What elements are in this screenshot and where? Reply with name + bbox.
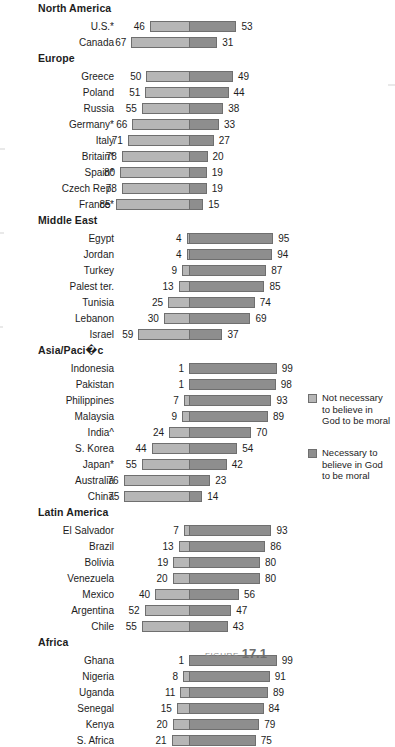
row-value-left: 51 (122, 86, 140, 99)
segment-necessary (190, 71, 233, 82)
segment-not-necessary (169, 427, 190, 438)
chart-row: Argentina5247 (0, 604, 395, 617)
segment-necessary (190, 573, 260, 584)
row-category-label: Brazil (6, 540, 114, 553)
row-value-right: 80 (265, 572, 289, 585)
row-value-right: 43 (233, 620, 257, 633)
row-bar (173, 557, 260, 568)
row-category-label: Chile (6, 620, 114, 633)
chart-row: Germany*6633 (0, 118, 395, 131)
row-value-left: 7 (161, 524, 179, 537)
row-value-right: 53 (241, 20, 265, 33)
segment-not-necessary (177, 703, 190, 714)
row-bar (189, 363, 277, 374)
segment-necessary (190, 703, 264, 714)
segment-necessary (190, 21, 236, 32)
row-category-label: India^ (6, 426, 114, 439)
row-category-label: Palest ter. (6, 280, 114, 293)
row-category-label: Israel (6, 328, 114, 341)
chart-row: Israel5937 (0, 328, 395, 341)
segment-necessary (190, 199, 203, 210)
segment-necessary (190, 329, 222, 340)
chart-row: Jordan494 (0, 248, 395, 261)
chart-row: Senegal1584 (0, 702, 395, 715)
segment-not-necessary (172, 735, 190, 746)
segment-necessary (190, 313, 250, 324)
row-bar (146, 71, 233, 82)
row-bar (187, 233, 274, 244)
row-value-right: 47 (236, 604, 260, 617)
group-heading: Middle East (38, 214, 97, 226)
row-value-left: 55 (119, 620, 137, 633)
chart-row: Lebanon3069 (0, 312, 395, 325)
chart-row: Poland5144 (0, 86, 395, 99)
segment-necessary (190, 151, 208, 162)
row-category-label: El Salvador (6, 524, 114, 537)
row-bar (124, 475, 211, 486)
segment-not-necessary (155, 589, 190, 600)
row-value-right: 23 (215, 474, 239, 487)
row-category-label: Poland (6, 86, 114, 99)
segment-necessary (190, 103, 223, 114)
segment-not-necessary (150, 21, 190, 32)
chart-row: France*8515 (0, 198, 395, 211)
row-value-right: 54 (242, 442, 266, 455)
segment-not-necessary (182, 265, 190, 276)
row-value-right: 69 (255, 312, 279, 325)
row-value-left: 11 (157, 686, 175, 699)
row-value-left: 21 (149, 734, 167, 747)
segment-necessary (190, 87, 229, 98)
row-bar (187, 249, 273, 260)
segment-necessary (190, 427, 251, 438)
segment-necessary (190, 167, 207, 178)
row-category-label: Senegal (6, 702, 114, 715)
row-value-left: 71 (105, 134, 123, 147)
row-value-left: 78 (99, 150, 117, 163)
segment-not-necessary (179, 281, 190, 292)
row-category-label: Lebanon (6, 312, 114, 325)
row-value-right: 93 (276, 394, 300, 407)
row-bar (145, 87, 228, 98)
row-bar (155, 589, 239, 600)
chart-row: Venezuela2080 (0, 572, 395, 585)
row-value-right: 91 (275, 670, 299, 683)
segment-not-necessary (180, 687, 190, 698)
row-bar (184, 395, 272, 406)
row-value-left: 85 (93, 198, 111, 211)
row-value-right: 84 (269, 702, 293, 715)
row-value-right: 20 (213, 150, 237, 163)
segment-necessary (190, 525, 271, 536)
row-value-left: 67 (108, 36, 126, 49)
row-value-left: 44 (129, 442, 147, 455)
row-value-left: 19 (150, 556, 168, 569)
row-bar (180, 687, 268, 698)
row-value-left: 55 (119, 458, 137, 471)
row-value-right: 56 (244, 588, 268, 601)
chart-row: Palest ter.1385 (0, 280, 395, 293)
segment-not-necessary (122, 183, 190, 194)
chart-row: Italy7127 (0, 134, 395, 147)
row-value-left: 76 (101, 474, 119, 487)
row-value-right: 79 (264, 718, 288, 731)
legend-label: Not necessary to believe in God to be mo… (322, 392, 392, 427)
row-value-right: 86 (270, 540, 294, 553)
chart-row: Egypt495 (0, 232, 395, 245)
segment-not-necessary (116, 199, 190, 210)
row-bar (177, 703, 264, 714)
row-bar (189, 379, 276, 390)
row-value-left: 4 (164, 248, 182, 261)
row-value-left: 75 (101, 490, 119, 503)
row-value-right: 94 (277, 248, 301, 261)
chart-row: Tunisia2574 (0, 296, 395, 309)
group-heading: Latin America (38, 506, 108, 518)
segment-not-necessary (138, 329, 190, 340)
row-value-left: 9 (159, 264, 177, 277)
row-value-right: 85 (269, 280, 293, 293)
segment-not-necessary (120, 167, 190, 178)
row-value-right: 93 (276, 524, 300, 537)
row-value-left: 52 (122, 604, 140, 617)
chart-row: Brazil1386 (0, 540, 395, 553)
segment-necessary (190, 135, 214, 146)
row-value-right: 27 (219, 134, 243, 147)
figure-caption: FIGURE 17.1 (205, 646, 267, 661)
